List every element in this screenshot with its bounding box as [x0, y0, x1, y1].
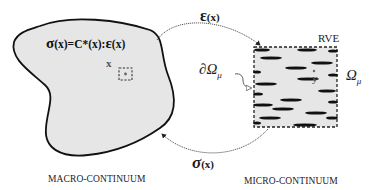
rve-label: RVE [318, 33, 339, 44]
inclusion [328, 100, 338, 103]
formula-middle: (x)=C*(x): [54, 38, 105, 50]
inclusion [305, 111, 327, 114]
stress-symbol: σ [192, 153, 201, 172]
boundary-pointer-arrow [235, 74, 251, 88]
strain-symbol: ε [200, 7, 207, 24]
multiscale-diagram [0, 0, 380, 190]
inclusion [260, 56, 282, 59]
inclusion [318, 89, 336, 92]
domain-label: Ωμ [346, 68, 361, 86]
inclusion [326, 116, 338, 119]
inclusion [259, 116, 281, 119]
inclusion [253, 92, 263, 95]
inclusion [328, 73, 338, 76]
domain-symbol: Ω [346, 67, 357, 83]
stress-arg: (x) [201, 158, 214, 170]
strain-arg: (x) [207, 11, 220, 23]
inclusion [254, 48, 270, 51]
inclusion [253, 70, 261, 73]
inclusion [293, 123, 317, 126]
inclusion [253, 121, 261, 124]
boundary-subscript: μ [217, 70, 222, 80]
formula-end: (x) [112, 38, 125, 50]
boundary-symbol: ∂Ω [199, 61, 217, 77]
domain-subscript: μ [357, 76, 362, 86]
constitutive-formula: σ(x)=C*(x):ε(x) [46, 36, 125, 51]
micro-caption: MICRO-CONTINUUM [244, 177, 338, 187]
strain-arrow [157, 23, 260, 45]
inclusion [285, 66, 307, 69]
inclusion [255, 82, 277, 85]
stress-arrow-label: σ(x) [192, 154, 214, 171]
macro-caption: MACRO-CONTINUUM [48, 175, 146, 185]
inclusion [311, 61, 333, 64]
macro-point-label: x [106, 58, 112, 69]
inclusion [272, 107, 294, 110]
material-point-dot [124, 73, 127, 76]
stress-symbol: σ [46, 35, 54, 51]
inclusion [297, 48, 317, 51]
micro-point-label: y [312, 73, 318, 84]
inclusion [328, 49, 338, 52]
boundary-label: ∂Ωμ [199, 62, 222, 80]
inclusion [253, 103, 273, 106]
inclusion [280, 98, 302, 101]
stress-arrow [162, 129, 268, 153]
strain-arrow-label: ε(x) [200, 8, 220, 24]
